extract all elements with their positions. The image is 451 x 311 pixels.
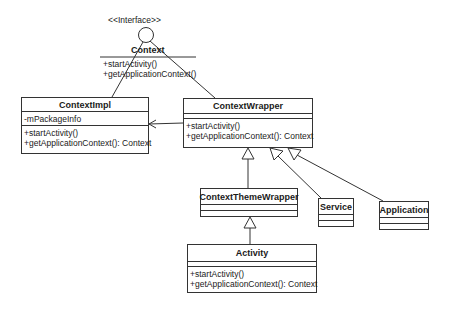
method: +getApplicationContext(): Context	[190, 279, 316, 289]
generalization-arrow-icon	[288, 148, 301, 160]
class-contextthemewrapper[interactable]: ContextThemeWrapper	[200, 188, 298, 217]
class-service[interactable]: Service	[318, 198, 354, 227]
class-name: ContextThemeWrapper	[201, 189, 297, 205]
generalization-arrow-icon	[270, 148, 283, 160]
interface-name: Context	[131, 45, 165, 55]
method: +startActivity()	[190, 269, 316, 279]
association-line	[149, 123, 183, 124]
class-name: ContextWrapper	[184, 99, 312, 114]
class-name: Service	[319, 199, 353, 215]
interface-circle-icon	[139, 28, 154, 43]
class-name: ContextImpl	[22, 98, 148, 112]
method: +getApplicationContext(): Context	[24, 138, 148, 148]
attribute: -mPackageInfo	[24, 114, 148, 124]
method: +startActivity()	[24, 128, 148, 138]
interface-method: +getApplicationContext()	[103, 69, 196, 79]
method: +getApplicationContext(): Context	[186, 131, 312, 141]
interface-stereotype: <<Interface>>	[108, 15, 161, 25]
class-contextwrapper[interactable]: ContextWrapper +startActivity() +getAppl…	[183, 98, 313, 148]
generalization-arrow-icon	[244, 217, 256, 228]
interface-method: +startActivity()	[103, 59, 157, 69]
generalization-arrow-icon	[242, 148, 254, 159]
method: +startActivity()	[186, 121, 312, 131]
class-activity[interactable]: Activity +startActivity() +getApplicatio…	[187, 244, 317, 293]
class-contextimpl[interactable]: ContextImpl -mPackageInfo +startActivity…	[21, 97, 149, 154]
class-name: Activity	[188, 245, 316, 262]
class-name: Application	[380, 202, 428, 218]
class-application[interactable]: Application	[379, 201, 429, 230]
